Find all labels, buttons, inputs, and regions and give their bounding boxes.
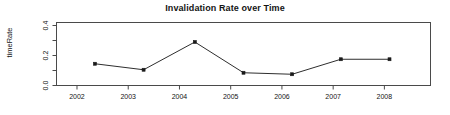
axis-group xyxy=(53,23,431,90)
data-point xyxy=(339,58,342,61)
data-point xyxy=(142,68,145,71)
plot-box xyxy=(57,23,431,86)
data-line xyxy=(95,42,390,74)
plot-area xyxy=(0,0,450,115)
data-point xyxy=(193,41,196,44)
chart-container: Invalidation Rate over Time timeRate 0.4… xyxy=(0,0,450,115)
data-point xyxy=(291,73,294,76)
data-point xyxy=(242,71,245,74)
series-group xyxy=(93,41,391,76)
data-point xyxy=(388,58,391,61)
data-point xyxy=(93,62,96,65)
